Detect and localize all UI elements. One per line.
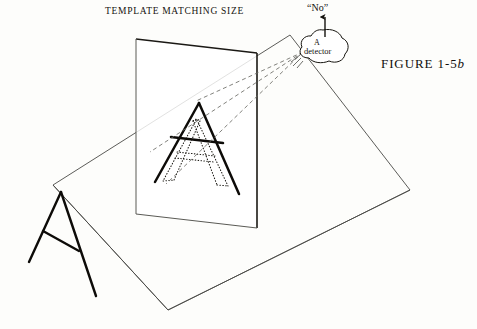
page-title: TEMPLATE MATCHING SIZE <box>105 6 244 16</box>
image-plane-fill <box>136 39 257 228</box>
scene-a-crossbar <box>43 231 79 251</box>
scene-a-left-stroke <box>29 192 61 262</box>
figure-number-prefix: FIGURE 1-5 <box>381 56 458 71</box>
figure-page: TEMPLATE MATCHING SIZE “No” A detector F… <box>0 0 477 329</box>
detector-input-ticks <box>291 55 303 68</box>
detector-label-line-2: detector <box>304 46 331 56</box>
input-tick-1 <box>291 55 300 62</box>
scene-letter-a <box>29 192 96 296</box>
input-tick-3 <box>297 61 303 68</box>
figure-illustration <box>0 0 477 329</box>
detector-output-label: “No” <box>307 2 328 13</box>
figure-number-label: FIGURE 1-5b <box>381 56 465 72</box>
figure-number-suffix: b <box>458 56 465 71</box>
image-plane-group <box>136 39 257 228</box>
